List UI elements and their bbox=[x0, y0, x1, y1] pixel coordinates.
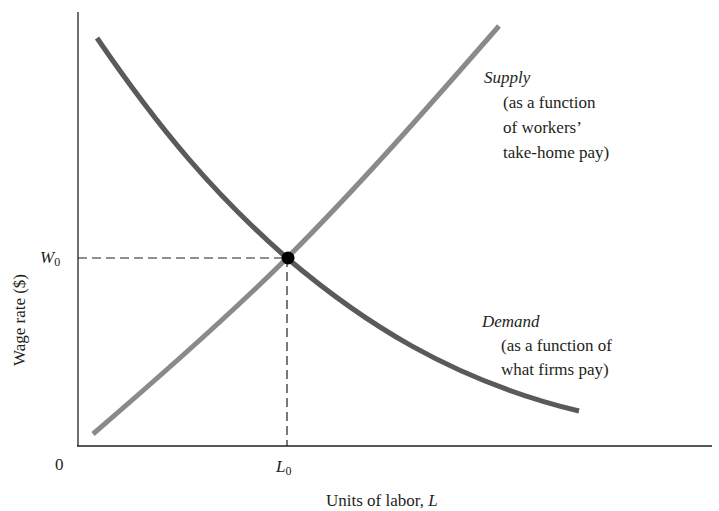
supply-note-line-3: take-home pay) bbox=[503, 142, 609, 163]
supply-curve bbox=[93, 26, 499, 434]
x-axis-label-text: Units of labor, bbox=[326, 491, 428, 510]
demand-note-line-2: what firms pay) bbox=[501, 359, 609, 380]
x-axis-label: Units of labor, L bbox=[326, 490, 438, 511]
supply-note-line-2: of workers’ bbox=[503, 117, 582, 138]
supply-title: Supply bbox=[484, 67, 530, 88]
equilibrium-point bbox=[282, 252, 295, 265]
demand-title: Demand bbox=[482, 311, 540, 332]
w0-tick-label: W0 bbox=[40, 247, 60, 273]
x-axis-label-var: L bbox=[428, 491, 437, 510]
l0-tick-label: L0 bbox=[276, 456, 291, 482]
supply-note-line-1: (as a function bbox=[503, 92, 596, 113]
y-axis-label: Wage rate ($) bbox=[2, 200, 38, 440]
demand-note-line-1: (as a function of bbox=[501, 335, 612, 356]
w0-letter: W bbox=[40, 248, 54, 267]
l0-subscript: 0 bbox=[285, 464, 291, 478]
origin-label: 0 bbox=[55, 454, 64, 475]
y-axis-label-text: Wage rate ($) bbox=[10, 274, 30, 366]
w0-subscript: 0 bbox=[54, 255, 60, 269]
